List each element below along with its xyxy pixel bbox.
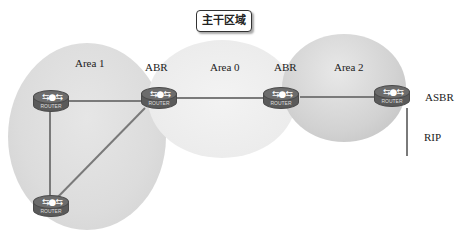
router-arrows-icon: ⇆●⇆: [150, 88, 168, 100]
router-area1-bottom[interactable]: ⇆●⇆ ROUTER: [33, 195, 69, 219]
area-2-label: Area 2: [334, 61, 364, 73]
link-r2-r3: [52, 108, 145, 203]
backbone-area-title: 主干区域: [196, 10, 252, 32]
router-arrows-icon: ⇆●⇆: [42, 91, 60, 103]
abr-left-label: ABR: [145, 61, 168, 73]
abr-right-label: ABR: [274, 61, 297, 73]
router-arrows-icon: ⇆●⇆: [383, 86, 401, 98]
router-abr-left[interactable]: ⇆●⇆ ROUTER: [141, 87, 177, 111]
router-area1-top[interactable]: ⇆●⇆ ROUTER: [33, 90, 69, 114]
area-1-label: Area 1: [75, 57, 105, 69]
router-arrows-icon: ⇆●⇆: [272, 88, 290, 100]
router-label: ROUTER: [263, 100, 299, 106]
rip-label: RIP: [424, 131, 441, 143]
router-label: ROUTER: [374, 98, 410, 104]
router-label: ROUTER: [33, 103, 69, 109]
router-label: ROUTER: [33, 208, 69, 214]
area-0-label: Area 0: [210, 61, 240, 73]
router-asbr[interactable]: ⇆●⇆ ROUTER: [374, 85, 410, 109]
links-layer: [0, 0, 461, 230]
asbr-label: ASBR: [425, 91, 454, 103]
router-label: ROUTER: [141, 100, 177, 106]
router-abr-right[interactable]: ⇆●⇆ ROUTER: [263, 87, 299, 111]
router-arrows-icon: ⇆●⇆: [42, 196, 60, 208]
